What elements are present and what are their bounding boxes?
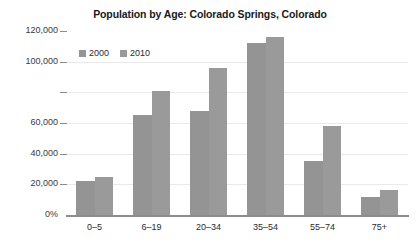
legend-item-2000: 2000 [79,48,109,58]
x-axis-tick-label: 20–34 [179,222,239,232]
y-axis-tick-label: 60,000 [0,117,58,127]
x-axis-tick-label: 35–54 [236,222,296,232]
y-axis-tick [60,154,67,155]
gridline [66,184,408,185]
y-axis-tick-label: 100,000 [0,56,58,66]
legend-label: 2000 [89,48,109,58]
gridline [66,154,408,155]
x-axis-tick-label: 75+ [350,222,410,232]
bar-2010-0–5 [95,177,114,215]
legend-item-2010: 2010 [120,48,150,58]
bar-group [133,31,170,215]
x-axis-line [66,215,409,217]
gridline [66,123,408,124]
y-axis-tick-label: 0% [0,209,58,219]
y-axis-tick [60,184,67,185]
bar-2010-75+ [380,190,399,215]
y-axis-tick-label: 120,000 [0,25,58,35]
bar-group [304,31,341,215]
y-axis-tick [60,62,67,63]
y-axis-labels: 0%20,00040,00060,000100,000120,000 [0,0,58,247]
legend-swatch-icon [120,50,127,57]
bar-2000-0–5 [76,181,95,215]
bar-group [76,31,113,215]
bar-2000-55–74 [304,161,323,215]
chart-title: Population by Age: Colorado Springs, Col… [0,8,420,20]
plot-area [66,31,408,215]
x-axis-tick-label: 0–5 [65,222,125,232]
y-axis-tick-label: 40,000 [0,148,58,158]
x-axis-tick-label: 6–19 [122,222,182,232]
gridline [66,92,408,93]
legend-label: 2010 [130,48,150,58]
y-axis-tick [60,31,67,32]
gridline [66,62,408,63]
bar-group [247,31,284,215]
bar-group [190,31,227,215]
chart-legend: 20002010 [79,48,150,58]
bar-2000-6–19 [133,115,152,215]
y-axis-tick-label: 20,000 [0,178,58,188]
bar-2010-35–54 [266,37,285,215]
x-axis-tick-label: 55–74 [293,222,353,232]
bar-2000-20–34 [190,111,209,215]
bar-2010-6–19 [152,91,171,215]
bar-2010-20–34 [209,68,228,215]
bar-2000-75+ [361,197,380,215]
y-axis-tick [60,123,67,124]
legend-swatch-icon [79,50,86,57]
bar-2010-55–74 [323,126,342,215]
y-axis-tick [60,92,67,93]
chart-figure: Population by Age: Colorado Springs, Col… [0,0,420,247]
bar-2000-35–54 [247,43,266,215]
bar-group [361,31,398,215]
